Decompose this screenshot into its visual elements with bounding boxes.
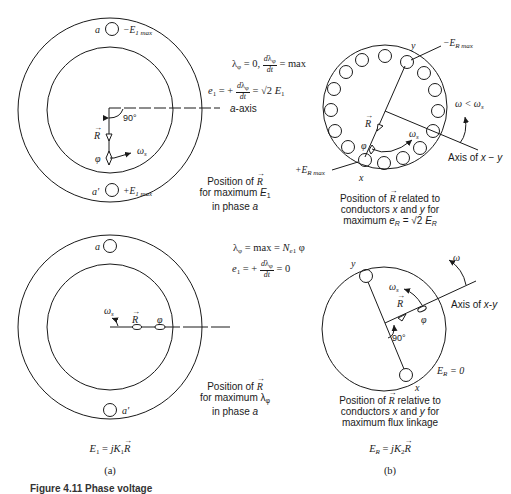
angle-label: 90° [123,113,137,124]
caption-b-bottom: Position of R relative to conductors x a… [330,395,450,428]
slot-y [360,270,373,283]
conductor-x-label: x [415,382,419,393]
figure-caption: Figure 4.11 Phase voltage [30,483,152,494]
rotor-circle [323,45,447,169]
slot-a-label: a [95,24,100,35]
flux-phi-label: φ [361,140,367,151]
vector-r-label: R [94,130,100,141]
emf-zero-label: ER = 0 [437,365,464,380]
omega-s-arrow-icon [372,140,412,152]
conductor-y-label: y [351,258,355,269]
flux-phi-label: φ [421,314,427,325]
conductor-y-label: y [411,40,415,51]
omega-s-arrow-icon [404,289,422,305]
omega-s-label: ωs [137,145,147,160]
caption-b-top: Position of R related to conductors x an… [330,193,450,229]
axis-xy-label: Axis of x-y [451,299,497,310]
slot-x [400,369,413,382]
emf-x-label: +ER max [295,165,325,179]
rotor-speed-label: ω < ωs [455,98,484,113]
vector-r-label: R [132,314,138,325]
rotor-circle [322,267,446,391]
slot-a-prime [106,184,119,197]
axis-xy-label: Axis of x − y [448,152,502,163]
flux-phi-icon [417,305,427,313]
emf-y-label: −ER max [443,38,473,52]
slot-a [106,23,119,36]
slot-x [359,154,372,167]
a-axis-label: a-axis [230,103,257,114]
rotor-speed-label: ω [453,252,460,263]
slot-a-label: a [95,241,100,252]
angle-label: 90° [392,333,406,344]
equation-e1: E1 = jK1R [70,443,150,458]
slot-a [104,240,117,253]
slot-a-emf-label: −E1 max [123,25,152,39]
equation-e1-zero: e1 = + dλφdt = 0 [232,260,290,279]
r-vector-icon [133,325,142,330]
equation-lambda-zero: λφ = 0, dλφdt = max [232,55,306,74]
caption-a-bottom: Position of R for maximum λφ in phase a [195,381,275,417]
stator-outer-circle [18,18,202,202]
rotor-speed-arrow-icon [460,117,466,143]
slot-a-prime [104,404,117,417]
slot-y [401,56,414,69]
omega-s-arrow-icon [110,153,131,158]
r-vector-icon [106,134,112,141]
r-vector-icon [377,124,383,131]
omega-s-label: ωs [104,305,114,320]
vector-r-label: R [397,298,403,309]
omega-s-label: ωs [409,128,419,143]
flux-phi-icon [155,325,165,330]
panel-label-b: (b) [370,465,410,476]
equation-er: ER = jK2R [345,443,435,458]
flux-phi-label: φ [157,314,163,325]
caption-a-top: Position of R for maximum E1 in phase a [195,176,275,212]
slot-a-prime-label: a' [122,405,129,416]
slot-a-prime-emf-label: +E1 max [123,186,152,200]
slot-a-prime-label: a' [92,186,99,197]
stator-diagram-a-top [18,18,220,202]
rotor-speed-arrow-icon [449,260,466,285]
emf-leader-x [332,162,358,170]
vector-r-label: R [365,118,371,129]
flux-phi-label: φ [95,153,101,164]
equation-e1-max: e1 = + dλφdt = √2 E1 [208,82,285,101]
conductor-x-label: x [359,172,363,183]
equation-lambda-max: λφ = max = Ne1 φ [233,242,305,257]
axis-xy-line [385,111,478,150]
panel-label-a: (a) [90,465,130,476]
angle-arc [109,109,123,118]
